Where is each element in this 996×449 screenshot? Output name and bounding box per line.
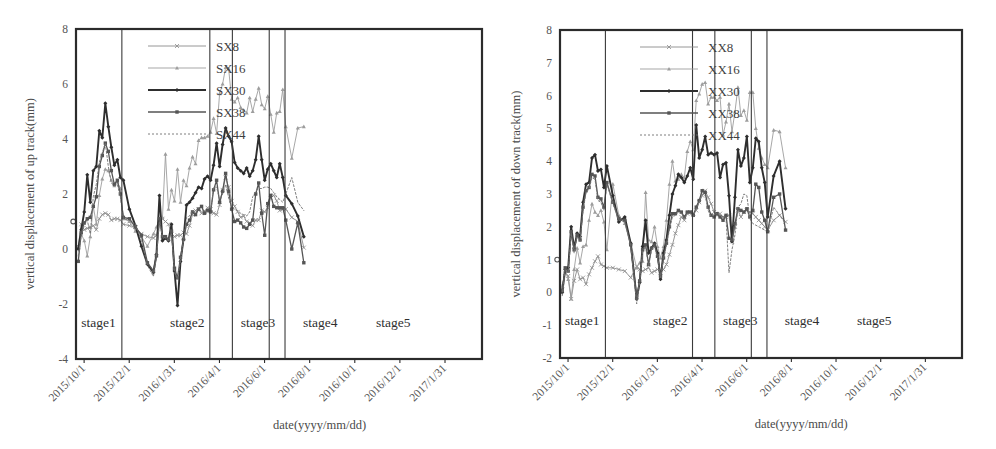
y-axis-ticks: 86420-2-4 (58, 23, 68, 365)
x-tick-label: 2016/6/1 (713, 361, 751, 399)
data-point-marker (564, 266, 567, 269)
figure-two-line-charts: 86420-2-4vertical displacement of up tra… (0, 0, 996, 449)
x-axis-title: date(yyyy/mm/dd) (273, 418, 366, 432)
series-line-XX8 (562, 191, 785, 299)
data-point-marker (215, 141, 219, 145)
origin-circle-marker (555, 257, 560, 262)
y-tick-label: -1 (542, 319, 552, 331)
stage-dividers (605, 30, 767, 358)
data-point-marker (290, 247, 293, 250)
data-point-marker (82, 210, 86, 214)
data-point-marker (590, 202, 594, 206)
data-point-marker (763, 181, 767, 185)
data-point-marker (257, 134, 261, 138)
y-axis-title-group: vertical displacement of up track(mm) (23, 98, 37, 290)
data-point-marker (685, 149, 689, 153)
x-tick-label: 2016/1/31 (619, 361, 661, 403)
data-point-marker (212, 163, 216, 167)
legend-label-SX30: SX30 (216, 83, 246, 98)
series-line-SX30 (78, 103, 304, 305)
data-point-marker (302, 125, 306, 129)
data-point-marker (590, 266, 594, 270)
x-tick-label: 2016/12/1 (843, 361, 885, 403)
chart-down-track: 876543210-1-2vertical displacement of do… (498, 0, 996, 449)
data-point-marker (257, 86, 261, 90)
plot-frame (76, 29, 482, 359)
data-point-marker (263, 234, 266, 237)
legend-label-XX8: XX8 (708, 40, 733, 55)
data-point-marker (281, 206, 284, 209)
data-point-marker (281, 176, 285, 180)
data-point-marker (629, 276, 633, 280)
stage-label: stage4 (785, 313, 820, 328)
data-point-marker (172, 199, 176, 203)
data-point-marker (278, 109, 282, 113)
stage-labels: stage1stage2stage3stage4stage5 (565, 313, 892, 328)
chart-up-track: 86420-2-4vertical displacement of up tra… (0, 0, 498, 449)
y-tick-label: 7 (546, 57, 552, 69)
data-point-marker (254, 97, 258, 101)
stage-label: stage1 (81, 315, 116, 330)
data-point-marker (290, 215, 294, 219)
data-point-marker (188, 218, 191, 221)
data-point-marker (278, 206, 281, 209)
x-tick-label: 2015/12/1 (575, 361, 617, 403)
data-point-marker (757, 186, 760, 189)
data-point-marker (260, 103, 264, 107)
x-axis-ticks: 2015/10/12015/12/12016/1/312016/4/12016/… (46, 359, 449, 403)
data-point-marker (251, 109, 255, 113)
data-point-marker (215, 179, 218, 182)
data-point-marker (260, 158, 264, 162)
data-point-marker (275, 206, 278, 209)
data-point-marker (766, 215, 770, 219)
data-point-marker (281, 87, 285, 91)
stage-label: stage5 (376, 315, 411, 330)
data-point-marker (772, 218, 776, 222)
data-point-marker (88, 200, 92, 204)
data-point-marker (191, 155, 195, 159)
data-point-marker (218, 201, 221, 204)
data-point-marker (727, 194, 731, 198)
data-point-marker (203, 212, 206, 215)
stage-label: stage2 (170, 315, 205, 330)
data-point-marker (742, 210, 745, 213)
legend-label-XX30: XX30 (708, 84, 740, 99)
data-point-marker (667, 182, 671, 186)
data-point-marker (709, 202, 713, 206)
y-tick-label: 4 (62, 133, 68, 145)
data-point-marker (88, 235, 92, 239)
x-tick-label: 2016/10/1 (317, 362, 359, 404)
data-point-marker (772, 196, 775, 199)
data-point-marker (754, 182, 757, 185)
data-point-marker (248, 96, 252, 100)
x-axis-ticks: 2015/10/12015/12/12016/1/312016/4/12016/… (530, 358, 929, 402)
y-axis-title: vertical displacement of up track(mm) (23, 98, 37, 290)
data-point-marker (739, 209, 742, 212)
data-point-marker (169, 188, 173, 192)
stage-label: stage4 (303, 315, 338, 330)
data-point-marker (302, 261, 305, 264)
data-point-marker (587, 218, 591, 222)
data-point-marker (742, 108, 746, 112)
data-point-marker (296, 221, 299, 224)
x-tick-label: 2015/10/1 (46, 362, 88, 404)
y-tick-label: -4 (58, 353, 68, 365)
data-point-marker (703, 80, 707, 84)
data-point-marker (724, 214, 727, 217)
stage-label: stage3 (723, 313, 758, 328)
data-point-marker (176, 167, 180, 171)
data-point-marker (760, 166, 764, 170)
data-point-marker (730, 238, 733, 241)
data-point-marker (599, 197, 602, 200)
data-point-marker (170, 229, 173, 232)
data-point-marker (784, 228, 787, 231)
data-point-marker (697, 92, 701, 96)
legend-label-SX38: SX38 (216, 105, 246, 120)
legend-label-SX8: SX8 (216, 39, 239, 54)
data-point-marker (103, 101, 107, 105)
data-point-marker (745, 118, 749, 122)
data-point-marker (703, 191, 706, 194)
y-tick-label: 2 (546, 221, 552, 233)
data-point-marker (157, 193, 161, 197)
data-point-marker (248, 223, 251, 226)
